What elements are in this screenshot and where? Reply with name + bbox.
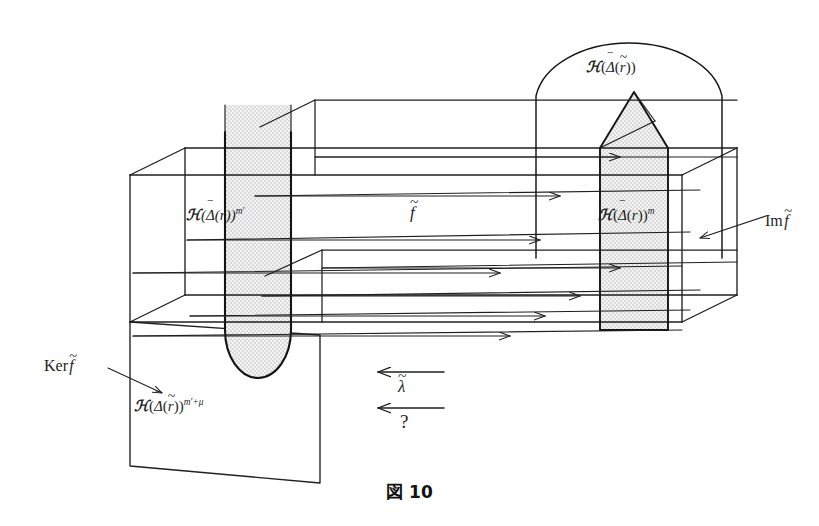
label-ker: Ker f~ [44, 358, 74, 374]
label-arch-delta: Δ [606, 60, 615, 75]
label-im-symbol: f [784, 213, 788, 229]
label-left-slab: ℋ(Δ‾(r))m′ [186, 207, 244, 223]
figure-root: ℋ(Δ‾(r))m′ f~ ℋ(Δ‾(r))m ℋ(Δ‾(r~)) Im f~ … [0, 0, 819, 526]
label-arch: ℋ(Δ‾(r~)) [586, 60, 636, 75]
label-left-slab-exponent: m′ [236, 206, 245, 216]
label-right-slab-exponent: m [648, 206, 655, 216]
label-kernel-plane-exponent: m′+μ [184, 397, 204, 407]
im-pointer-arrow [700, 216, 766, 238]
label-im: Im f~ [765, 213, 789, 229]
paren-close: ) [631, 59, 636, 75]
label-right-slab: ℋ(Δ‾(r))m [598, 207, 654, 223]
label-right-slab-delta: Δ [618, 208, 627, 223]
label-ker-symbol: f [69, 358, 73, 374]
label-right-slab-script: ℋ [598, 206, 613, 224]
label-lambda-symbol: λ [398, 378, 405, 395]
label-kernel-plane: ℋ(Δ‾(r~))m′+μ [134, 398, 203, 414]
label-question-mark: ? [400, 411, 408, 432]
flow-arrows-bottom [133, 268, 620, 336]
label-kernel-plane-script: ℋ [134, 397, 149, 415]
caption-text: 図 10 [386, 482, 433, 502]
lambda-arrows [378, 372, 444, 408]
label-im-word: Im [765, 212, 783, 229]
label-ker-word: Ker [44, 357, 68, 374]
label-kernel-plane-delta: Δ [154, 399, 163, 414]
left-slab-shape [225, 105, 291, 378]
label-map-f: f~ [410, 204, 415, 221]
label-left-slab-script: ℋ [186, 206, 201, 224]
label-arch-script: ℋ [586, 58, 601, 76]
label-left-slab-delta: Δ [206, 208, 215, 223]
diagram-canvas [0, 0, 819, 526]
label-arch-r: r [620, 60, 626, 75]
figure-caption: 図 10 [0, 478, 819, 503]
label-lambda: λ~ [398, 378, 405, 395]
label-question: ? [400, 412, 408, 431]
label-map-f-symbol: f [410, 204, 415, 221]
label-kernel-plane-r: r [168, 399, 174, 414]
